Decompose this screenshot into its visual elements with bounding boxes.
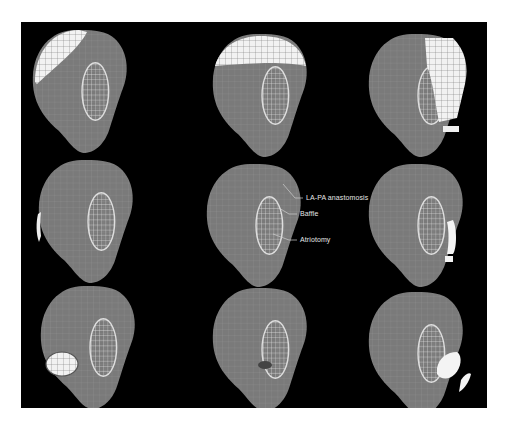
heart-r2c3	[369, 164, 463, 287]
heart-grid	[21, 22, 487, 408]
heart-r3c1	[41, 286, 135, 408]
heart-r3c2	[213, 288, 307, 408]
label-la-pa-anastomosis: LA-PA anastomosis	[306, 194, 368, 201]
label-baffle: Baffle	[300, 210, 318, 217]
heart-r2c1	[37, 160, 133, 283]
heart-r1c1	[33, 30, 127, 153]
heart-r1c2	[213, 34, 307, 157]
heart-r1c3	[369, 34, 467, 157]
label-atriotomy: Atriotomy	[300, 236, 330, 243]
heart-r3c3	[369, 292, 471, 408]
figure-panel: LA-PA anastomosis Baffle Atriotomy	[21, 22, 487, 408]
heart-r2c2	[207, 164, 301, 287]
